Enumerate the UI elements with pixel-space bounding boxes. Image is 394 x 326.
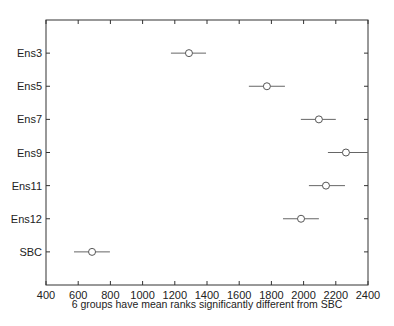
mean-marker-circle-icon: [315, 116, 322, 123]
y-tick-label: Ens11: [12, 180, 42, 192]
mean-marker-circle-icon: [298, 215, 305, 222]
y-tick-label: Ens5: [17, 80, 42, 92]
x-axis-label: 6 groups have mean ranks significantly d…: [72, 298, 343, 310]
mean-marker-circle-icon: [322, 182, 329, 189]
x-tick-label: 400: [37, 289, 55, 301]
y-tick-label: Ens3: [17, 47, 42, 59]
mean-marker-circle-icon: [89, 248, 96, 255]
y-tick-label: Ens9: [17, 147, 42, 159]
x-tick-label: 2400: [356, 289, 380, 301]
y-tick-label: SBC: [19, 246, 42, 258]
mean-marker-circle-icon: [263, 83, 270, 90]
mean-marker-circle-icon: [185, 50, 192, 57]
chart-plot: 4006008001000120014001600180020002200240…: [0, 0, 394, 326]
mean-marker-circle-icon: [342, 149, 349, 156]
y-tick-label: Ens12: [11, 213, 42, 225]
plot-area: [46, 20, 368, 285]
y-tick-label: Ens7: [17, 113, 42, 125]
